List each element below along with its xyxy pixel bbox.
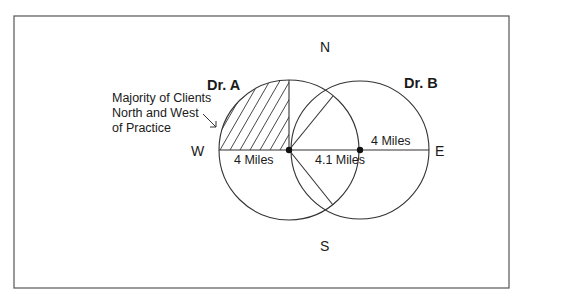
annotation-arrow-icon: [203, 114, 216, 127]
annotation-line-1: Majority of Clients: [112, 91, 211, 105]
annotation-line-3: of Practice: [112, 121, 171, 135]
compass-east-label: E: [435, 143, 444, 159]
dr-a-ne-radius: [289, 96, 333, 150]
dr-a-radius-label: 4 Miles: [234, 153, 274, 167]
distance-between-label: 4.1 Miles: [315, 153, 365, 167]
compass-west-label: W: [191, 143, 205, 159]
compass-south-label: S: [320, 238, 329, 254]
annotation-line-2: North and West: [112, 106, 199, 120]
dr-a-label: Dr. A: [207, 77, 241, 93]
annotation-text: Majority of Clients North and West of Pr…: [112, 91, 211, 135]
compass-north-label: N: [320, 39, 330, 55]
diagram-canvas: Dr. A Dr. B N S E W 4 Miles 4 Miles 4.1 …: [0, 0, 571, 303]
dr-a-location-dot: [286, 147, 292, 153]
dr-b-label: Dr. B: [404, 75, 438, 91]
dr-b-radius-label: 4 Miles: [371, 134, 411, 148]
